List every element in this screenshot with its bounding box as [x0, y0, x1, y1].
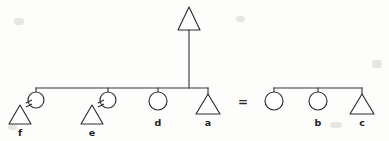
node-a-triangle[interactable]	[196, 94, 220, 114]
member-d[interactable]: d	[149, 92, 167, 128]
node-label-b: b	[315, 117, 322, 128]
member-b[interactable]: b	[309, 92, 327, 128]
node-label-e: e	[89, 127, 95, 138]
diagram-canvas: f e d a =	[0, 0, 389, 141]
member-c[interactable]: c	[350, 94, 374, 128]
node-e-triangle[interactable]	[81, 105, 103, 124]
node-right-first-circle[interactable]	[265, 92, 283, 110]
node-b-circle[interactable]	[309, 92, 327, 110]
node-label-a: a	[205, 117, 211, 128]
member-e[interactable]: e	[81, 92, 116, 138]
node-e-spouse-circle[interactable]	[100, 92, 116, 108]
member-f[interactable]: f	[9, 92, 44, 138]
paper-texture	[8, 16, 382, 130]
equation-operator: =	[238, 95, 248, 109]
node-label-f: f	[18, 127, 23, 138]
right-kin-group: b c	[265, 88, 374, 128]
node-c-triangle[interactable]	[350, 94, 374, 114]
member-a[interactable]: a	[196, 94, 220, 128]
node-f-triangle[interactable]	[9, 105, 31, 124]
node-label-d: d	[155, 117, 162, 128]
node-descendant-triangle[interactable]	[178, 7, 200, 30]
kinship-diagram: f e d a =	[0, 0, 389, 141]
left-kin-group: f e d a	[9, 7, 220, 138]
member-right-first[interactable]	[265, 92, 283, 110]
node-d-circle[interactable]	[149, 92, 167, 110]
node-label-c: c	[359, 117, 365, 128]
node-f-spouse-circle[interactable]	[28, 92, 44, 108]
